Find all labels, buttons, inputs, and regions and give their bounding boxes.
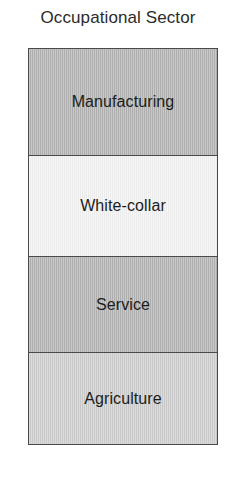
- sector-band-manufacturing: Manufacturing: [29, 49, 217, 155]
- occupational-sector-stack-chart: Manufacturing White-collar Service Agric…: [28, 48, 218, 445]
- sector-band-label-white-collar: White-collar: [80, 197, 166, 215]
- sector-band-white-collar: White-collar: [29, 155, 217, 257]
- sector-band-label-agriculture: Agriculture: [84, 390, 162, 408]
- sector-band-label-service: Service: [96, 296, 150, 314]
- page-title: Occupational Sector: [0, 8, 236, 28]
- sector-band-label-manufacturing: Manufacturing: [72, 93, 175, 111]
- sector-band-agriculture: Agriculture: [29, 352, 217, 444]
- sector-band-service: Service: [29, 256, 217, 352]
